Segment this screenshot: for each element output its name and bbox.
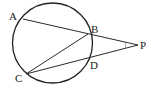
segment-CB	[26, 34, 88, 74]
label-a: A	[9, 10, 17, 22]
label-c: C	[15, 72, 22, 84]
angle-p-mark	[125, 42, 126, 48]
label-b: B	[91, 23, 98, 35]
label-p: P	[140, 39, 146, 51]
segment-AP	[23, 19, 138, 45]
circle-secant-diagram: A B P D C	[0, 0, 158, 93]
label-d: D	[90, 59, 98, 71]
circle	[13, 3, 93, 83]
